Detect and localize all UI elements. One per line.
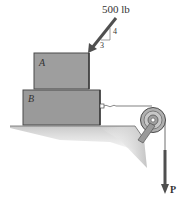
pull-force-label: P	[170, 185, 176, 195]
block-a-label: A	[39, 58, 45, 68]
pull-force-arrow	[161, 150, 169, 194]
slope-rise-label: 4	[113, 28, 117, 36]
applied-force-label: 500 lb	[102, 4, 130, 15]
ground-surface	[10, 126, 147, 168]
slope-run-label: 3	[100, 42, 104, 50]
pulley	[138, 108, 166, 144]
block-b-label: B	[28, 94, 34, 104]
diagram-canvas: 500 lb 4 3 A B P	[0, 0, 185, 200]
block-b	[23, 90, 100, 125]
